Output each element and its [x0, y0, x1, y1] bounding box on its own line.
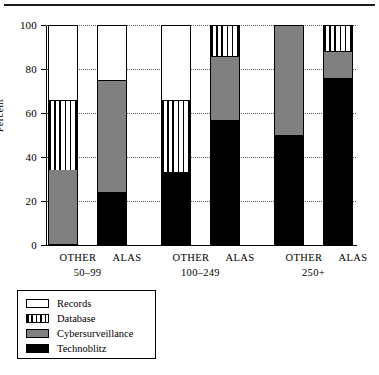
stacked-bar[interactable] [323, 25, 353, 245]
x-group-label: 100–249 [141, 267, 261, 278]
legend-item[interactable]: Technoblitz [26, 341, 155, 356]
y-tick-label: 60 [0, 108, 37, 119]
legend-label: Technoblitz [57, 343, 106, 354]
y-tick-mark [41, 245, 46, 246]
x-axis-line [46, 245, 357, 246]
stacked-bar[interactable] [48, 25, 78, 245]
bar-segment-technoblitz[interactable] [274, 135, 304, 245]
stacked-bar[interactable] [161, 25, 191, 245]
y-tick-label: 40 [0, 152, 37, 163]
gridline [46, 201, 356, 202]
legend-label: Records [57, 298, 91, 309]
legend-swatch-technoblitz [26, 344, 49, 354]
gridline [46, 69, 356, 70]
legend-swatch-database [26, 314, 49, 324]
bar-segment-database[interactable] [48, 100, 78, 170]
legend-swatch-cybersurveillance [26, 329, 49, 339]
y-tick-label: 100 [0, 20, 37, 31]
y-tick-label: 0 [0, 240, 37, 251]
bar-segment-database[interactable] [323, 25, 353, 51]
bar-segment-technoblitz[interactable] [161, 172, 191, 245]
x-group-label: 50–99 [28, 267, 148, 278]
bar-segment-cybersurveillance[interactable] [274, 25, 304, 135]
y-tick-label: 20 [0, 196, 37, 207]
x-tick-label-alas: ALAS [313, 252, 379, 263]
bar-segment-database[interactable] [161, 100, 191, 173]
bar-segment-technoblitz[interactable] [323, 78, 353, 245]
bar-segment-technoblitz[interactable] [210, 120, 240, 245]
stacked-bar[interactable] [274, 25, 304, 245]
gridline [46, 157, 356, 158]
bar-segment-cybersurveillance[interactable] [210, 56, 240, 120]
bar-segment-cybersurveillance[interactable] [48, 170, 78, 245]
bar-segment-cybersurveillance[interactable] [97, 80, 127, 192]
stacked-bar[interactable] [210, 25, 240, 245]
bar-segment-technoblitz[interactable] [97, 192, 127, 245]
y-tick-label: 80 [0, 64, 37, 75]
bar-segment-records[interactable] [161, 25, 191, 100]
plot-area [46, 25, 356, 245]
bar-segment-database[interactable] [210, 25, 240, 56]
stacked-bar[interactable] [97, 25, 127, 245]
stacked-bar-chart-figure: Percent 020406080100 OTHERALASOTHERALASO… [0, 0, 379, 375]
legend-item[interactable]: Records [26, 296, 155, 311]
legend-item[interactable]: Cybersurveillance [26, 326, 155, 341]
bar-segment-records[interactable] [97, 25, 127, 80]
legend-item[interactable]: Database [26, 311, 155, 326]
gridline [46, 25, 356, 26]
legend-label: Cybersurveillance [57, 328, 133, 339]
legend-rows: RecordsDatabaseCybersurveillanceTechnobl… [26, 296, 155, 356]
bar-segment-cybersurveillance[interactable] [323, 51, 353, 77]
legend-swatch-records [26, 299, 49, 309]
bar-segment-records[interactable] [48, 25, 78, 100]
chart-legend: RecordsDatabaseCybersurveillanceTechnobl… [17, 290, 156, 359]
x-group-label: 250+ [254, 267, 374, 278]
gridline [46, 113, 356, 114]
legend-label: Database [57, 313, 95, 324]
